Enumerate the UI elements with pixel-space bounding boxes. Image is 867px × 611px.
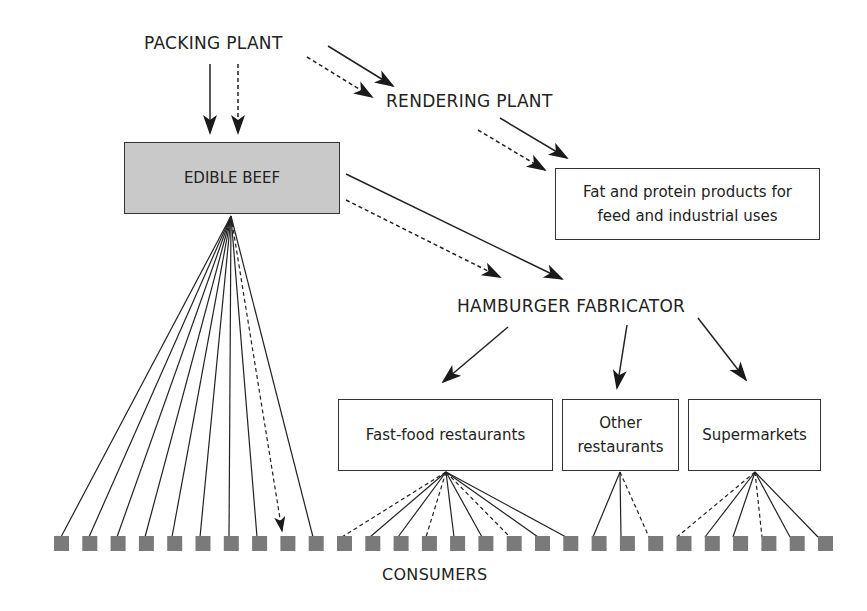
supermarkets-label: Supermarkets bbox=[702, 423, 807, 447]
consumer-square bbox=[196, 536, 211, 551]
consumer-square bbox=[592, 536, 607, 551]
consumer-square bbox=[761, 536, 776, 551]
fat-protein-products-box: Fat and protein products for feed and in… bbox=[555, 168, 820, 240]
other-restaurants-line2: restaurants bbox=[577, 435, 663, 459]
consumer-square bbox=[167, 536, 182, 551]
hamburger-fabricator-label: HAMBURGER FABRICATOR bbox=[457, 296, 685, 316]
edible-beef-box: EDIBLE BEEF bbox=[124, 142, 340, 214]
consumer-square bbox=[82, 536, 97, 551]
consumer-square bbox=[507, 536, 522, 551]
consumer-square bbox=[648, 536, 663, 551]
consumer-square bbox=[535, 536, 550, 551]
arrow-rendering-to-fat-dashed bbox=[478, 130, 545, 170]
fan-supermarkets-to-consumers bbox=[677, 472, 818, 537]
consumer-square bbox=[139, 536, 154, 551]
rendering-plant-label: RENDERING PLANT bbox=[386, 91, 553, 111]
consumer-square bbox=[54, 536, 69, 551]
consumer-square bbox=[790, 536, 805, 551]
edible-beef-label: EDIBLE BEEF bbox=[184, 166, 280, 190]
arrow-packing-to-rendering-solid bbox=[328, 46, 393, 86]
arrow-hamburger-to-supermarkets bbox=[698, 318, 746, 380]
consumer-square bbox=[365, 536, 380, 551]
consumer-square bbox=[677, 536, 692, 551]
packing-plant-label: PACKING PLANT bbox=[144, 33, 283, 53]
fast-food-label: Fast-food restaurants bbox=[366, 423, 526, 447]
fast-food-restaurants-box: Fast-food restaurants bbox=[338, 399, 553, 471]
consumer-square bbox=[280, 536, 295, 551]
fan-fastfood-to-consumers bbox=[342, 472, 566, 537]
arrow-rendering-to-fat-solid bbox=[500, 118, 567, 158]
consumer-square bbox=[252, 536, 267, 551]
consumer-square bbox=[478, 536, 493, 551]
consumer-square bbox=[422, 536, 437, 551]
consumer-square bbox=[394, 536, 409, 551]
fat-protein-line1: Fat and protein products for bbox=[583, 180, 792, 204]
consumer-square bbox=[620, 536, 635, 551]
fat-protein-line2: feed and industrial uses bbox=[597, 204, 777, 228]
consumer-square bbox=[733, 536, 748, 551]
consumer-square bbox=[337, 536, 352, 551]
supermarkets-box: Supermarkets bbox=[688, 399, 821, 471]
other-restaurants-box: Other restaurants bbox=[562, 399, 679, 471]
arrow-packing-to-rendering-dashed bbox=[307, 57, 372, 97]
other-restaurants-line1: Other bbox=[599, 411, 642, 435]
consumer-square bbox=[450, 536, 465, 551]
arrow-hamburger-to-other bbox=[617, 325, 627, 388]
consumer-square bbox=[309, 536, 324, 551]
consumer-squares bbox=[54, 536, 833, 551]
arrow-hamburger-to-fastfood bbox=[443, 327, 508, 382]
consumer-square bbox=[563, 536, 578, 551]
arrow-beef-to-hamburger-solid bbox=[346, 174, 562, 279]
consumer-square bbox=[224, 536, 239, 551]
consumer-square bbox=[818, 536, 833, 551]
consumers-label: CONSUMERS bbox=[382, 565, 488, 584]
consumer-square bbox=[705, 536, 720, 551]
fan-beef-to-consumers bbox=[61, 216, 313, 537]
consumer-square bbox=[111, 536, 126, 551]
fan-other-to-consumers bbox=[593, 472, 649, 537]
